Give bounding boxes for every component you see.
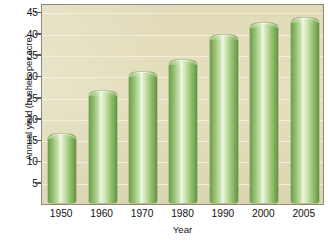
x-axis-tick-label: 2005 — [277, 208, 328, 219]
bar-top-cap — [210, 35, 238, 40]
bar[interactable] — [48, 134, 76, 204]
bar[interactable] — [250, 23, 278, 203]
bar-slot — [204, 4, 244, 204]
bar-highlight — [261, 23, 264, 203]
x-axis-title: Year — [41, 224, 324, 235]
bar-highlight — [180, 60, 183, 203]
bar-slot — [163, 4, 203, 204]
plot-area — [41, 4, 324, 205]
bar[interactable] — [89, 91, 117, 203]
bar-top-cap — [129, 72, 157, 77]
bar-highlight — [221, 35, 224, 203]
bar-highlight — [59, 134, 62, 204]
bars-layer — [42, 5, 323, 204]
bar-highlight — [301, 18, 304, 203]
bar-top-cap — [169, 60, 197, 65]
bar-slot — [123, 4, 163, 204]
bar[interactable] — [210, 35, 238, 203]
y-axis-tick-labels: 51015202530354045 — [6, 0, 38, 242]
bar-top-cap — [250, 23, 278, 28]
bar-slot — [82, 4, 122, 204]
bar[interactable] — [169, 60, 197, 203]
bar-top-cap — [291, 18, 319, 23]
bar-highlight — [99, 91, 102, 203]
bar[interactable] — [291, 18, 319, 203]
bar-slot — [42, 4, 82, 204]
bar-slot — [285, 4, 324, 204]
bar-slot — [244, 4, 284, 204]
bar[interactable] — [129, 72, 157, 203]
bar-chart: Annual yield (bushels per acre) 51015202… — [0, 0, 328, 242]
bar-top-cap — [89, 91, 117, 96]
bar-top-cap — [48, 134, 76, 139]
bar-highlight — [140, 72, 143, 203]
